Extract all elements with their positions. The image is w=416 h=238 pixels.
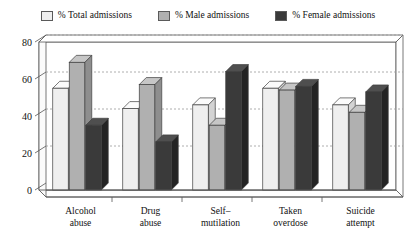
chart-screenshot: % Total admissions % Male admissions % F… <box>0 0 416 238</box>
bar <box>296 79 319 190</box>
x-category-label: Suicide <box>346 206 375 216</box>
x-category-label: abuse <box>70 218 92 228</box>
x-category-label: mutilation <box>201 218 240 228</box>
bar-chart-svg: 806040200AlcoholabuseDrugabuseSelf–mutil… <box>0 26 416 238</box>
axis-floor <box>39 190 403 197</box>
axis-right-3d <box>396 35 403 197</box>
legend-label-male: % Male admissions <box>175 11 249 21</box>
bar <box>156 135 179 190</box>
legend-item-female: % Female admissions <box>275 11 375 21</box>
legend-label-total: % Total admissions <box>58 11 132 21</box>
legend-label-female: % Female admissions <box>292 11 375 21</box>
legend-swatch-total <box>41 11 53 21</box>
legend-swatch-male <box>158 11 170 21</box>
legend-swatch-female <box>275 11 287 21</box>
bar <box>86 118 109 190</box>
x-category-label: overdose <box>273 218 307 228</box>
x-category-label: Alcohol <box>65 206 96 216</box>
axis-left-3d <box>39 35 46 197</box>
x-category-label: abuse <box>140 218 162 228</box>
x-category-label: Taken <box>279 206 302 216</box>
chart-legend: % Total admissions % Male admissions % F… <box>0 6 416 26</box>
y-tick-label: 20 <box>22 148 32 159</box>
legend-item-male: % Male admissions <box>158 11 249 21</box>
x-category-label: Drug <box>141 206 161 216</box>
axis-top-3d <box>39 35 403 42</box>
y-tick-label: 60 <box>22 74 32 85</box>
x-category-label: attempt <box>346 218 375 228</box>
y-tick-label: 40 <box>22 111 32 122</box>
chart-plot-area: 806040200AlcoholabuseDrugabuseSelf–mutil… <box>0 26 416 238</box>
y-tick-label: 80 <box>22 37 32 48</box>
x-category-label: Self– <box>210 206 230 216</box>
legend-item-total: % Total admissions <box>41 11 132 21</box>
bar <box>366 85 389 190</box>
bar <box>226 65 249 190</box>
y-tick-label: 0 <box>27 185 32 196</box>
